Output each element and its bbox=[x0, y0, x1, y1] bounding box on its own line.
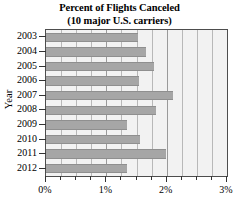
x-tick-minor bbox=[136, 176, 137, 180]
y-tick-2005 bbox=[39, 66, 46, 67]
bar-row bbox=[46, 132, 227, 147]
x-tick-minor bbox=[151, 176, 152, 180]
y-tick-label-2009: 2009 bbox=[17, 119, 37, 129]
bar-chart: Percent of Flights Canceled (10 major U.… bbox=[0, 0, 239, 202]
x-axis-ticks bbox=[45, 176, 228, 182]
x-tick-label-2%: 2% bbox=[151, 184, 181, 195]
x-tick-minor bbox=[120, 176, 121, 180]
bar-2010 bbox=[46, 135, 140, 144]
bar-2009 bbox=[46, 120, 127, 129]
plot-area bbox=[45, 29, 228, 177]
x-tick-minor bbox=[211, 176, 212, 180]
x-tick-minor bbox=[196, 176, 197, 180]
bar-row bbox=[46, 30, 227, 45]
bar-2005 bbox=[46, 62, 154, 71]
y-tick-label-2004: 2004 bbox=[17, 46, 37, 56]
y-tick-label-2011: 2011 bbox=[17, 148, 37, 158]
x-axis-tick-labels: 0%1%2%3% bbox=[0, 184, 239, 198]
y-tick-label-2012: 2012 bbox=[17, 163, 37, 173]
y-tick-label-2010: 2010 bbox=[17, 134, 37, 144]
y-tick-2007 bbox=[39, 95, 46, 96]
bar-row bbox=[46, 74, 227, 89]
bar-row bbox=[46, 147, 227, 162]
x-tick-label-0%: 0% bbox=[30, 184, 60, 195]
y-tick-2004 bbox=[39, 51, 46, 52]
bar-2004 bbox=[46, 47, 146, 56]
bar-row bbox=[46, 88, 227, 103]
bar-row bbox=[46, 103, 227, 118]
bar-series bbox=[46, 30, 227, 176]
chart-title-line-1: Percent of Flights Canceled bbox=[59, 2, 179, 13]
chart-title-line-2: (10 major U.S. carriers) bbox=[0, 15, 239, 28]
bar-row bbox=[46, 161, 227, 176]
x-tick-major bbox=[226, 176, 227, 182]
bar-row bbox=[46, 59, 227, 74]
y-tick-label-2007: 2007 bbox=[17, 90, 37, 100]
x-tick-major bbox=[105, 176, 106, 182]
y-tick-2006 bbox=[39, 80, 46, 81]
x-tick-minor bbox=[60, 176, 61, 180]
bar-2012 bbox=[46, 164, 127, 173]
y-tick-label-2006: 2006 bbox=[17, 75, 37, 85]
x-tick-minor bbox=[90, 176, 91, 180]
bar-row bbox=[46, 118, 227, 133]
bar-2007 bbox=[46, 91, 173, 100]
x-tick-major bbox=[166, 176, 167, 182]
x-tick-label-1%: 1% bbox=[90, 184, 120, 195]
x-tick-label-3%: 3% bbox=[211, 184, 239, 195]
bar-row bbox=[46, 45, 227, 60]
y-tick-2008 bbox=[39, 109, 46, 110]
y-tick-2009 bbox=[39, 124, 46, 125]
y-tick-2010 bbox=[39, 139, 46, 140]
y-tick-label-2008: 2008 bbox=[17, 104, 37, 114]
chart-title: Percent of Flights Canceled (10 major U.… bbox=[0, 2, 239, 27]
bar-2011 bbox=[46, 149, 166, 158]
bar-2003 bbox=[46, 33, 138, 42]
y-tick-2003 bbox=[39, 36, 46, 37]
y-axis-tick-labels: 2003200420052006200720082009201020112012 bbox=[0, 29, 45, 175]
y-tick-label-2005: 2005 bbox=[17, 61, 37, 71]
y-tick-2011 bbox=[39, 153, 46, 154]
x-tick-minor bbox=[181, 176, 182, 180]
x-tick-minor bbox=[75, 176, 76, 180]
bar-2006 bbox=[46, 76, 139, 85]
y-tick-label-2003: 2003 bbox=[17, 31, 37, 41]
bar-2008 bbox=[46, 106, 156, 115]
x-tick-major bbox=[45, 176, 46, 182]
y-tick-2012 bbox=[39, 168, 46, 169]
